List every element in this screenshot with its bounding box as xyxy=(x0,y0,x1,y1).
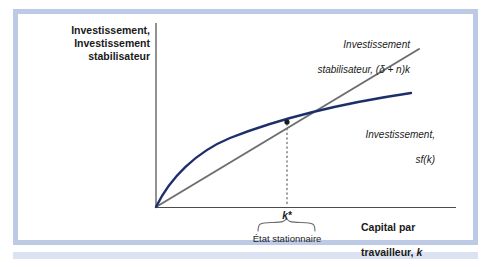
steady-state-point-marker xyxy=(284,119,289,124)
x-axis-label: Capital par travailleur, k xyxy=(361,208,473,259)
x-axis-label-variable: k xyxy=(416,246,422,258)
series-label-stabilizing-line1: Investissement xyxy=(343,39,410,50)
x-axis-label-line1: Capital par xyxy=(361,221,415,233)
y-axis-label: Investissement, Investissement stabilisa… xyxy=(28,24,150,62)
series-label-sfk-line1: Investissement, xyxy=(366,129,435,140)
series-label-investment-sfk: Investissement, sf(k) xyxy=(300,117,435,166)
x-axis-label-line2: travailleur, xyxy=(361,246,416,258)
steady-state-tick-label: k* xyxy=(262,210,312,222)
series-label-stabilizing-investment: Investissement stabilisateur, (δ + n)k xyxy=(250,27,410,76)
figure-root: Investissement, Investissement stabilisa… xyxy=(0,0,494,267)
series-label-sfk-line2: sf(k) xyxy=(416,154,435,165)
steady-state-bracket-label: État stationnaire xyxy=(222,233,352,245)
series-label-stabilizing-line2: stabilisateur, (δ + n)k xyxy=(317,64,410,75)
